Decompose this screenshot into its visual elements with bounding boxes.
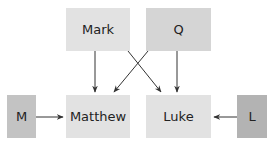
node-mark: Mark — [66, 8, 130, 51]
node-l-label: L — [248, 109, 255, 124]
node-mark-label: Mark — [82, 22, 114, 37]
node-matthew: Matthew — [66, 95, 130, 138]
node-luke: Luke — [146, 95, 211, 138]
node-q: Q — [146, 8, 211, 51]
node-l: L — [237, 95, 267, 138]
edge-mark-to-luke — [128, 51, 161, 92]
node-matthew-label: Matthew — [70, 109, 126, 124]
node-q-label: Q — [173, 22, 183, 37]
node-m: M — [7, 95, 36, 138]
node-luke-label: Luke — [163, 109, 193, 124]
edges-layer — [0, 0, 271, 147]
synoptic-source-diagram: Mark Q M Matthew Luke L — [0, 0, 271, 147]
node-m-label: M — [16, 109, 27, 124]
edge-q-to-matthew — [114, 51, 148, 92]
